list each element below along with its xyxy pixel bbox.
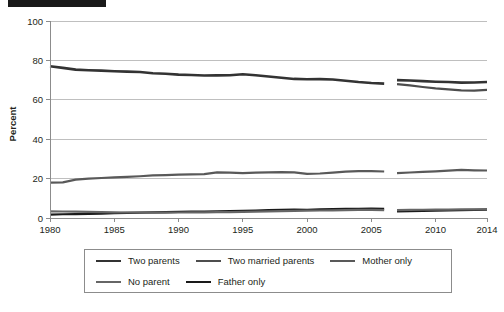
y-tick-label: 60 <box>32 94 43 105</box>
x-tick-label: 1990 <box>168 224 189 235</box>
legend-swatch-icon <box>196 260 221 262</box>
legend-item-mother-only[interactable]: Mother only <box>330 256 412 266</box>
x-axis-ticks: 19801985199019952000200520102014 <box>39 218 497 235</box>
series-line-two-married-parents <box>397 84 487 91</box>
legend-swatch-icon <box>96 281 121 283</box>
series-line-mother-only <box>50 171 384 182</box>
legend-row-1: Two parents Two married parents Mother o… <box>85 250 451 271</box>
series-line-two-parents <box>397 80 487 83</box>
y-tick-label: 40 <box>32 134 43 145</box>
x-tick-label: 1995 <box>232 224 253 235</box>
y-tick-label: 100 <box>27 16 43 27</box>
legend-label: No parent <box>128 277 170 287</box>
y-tick-label: 20 <box>32 173 43 184</box>
legend-item-two-parents[interactable]: Two parents <box>96 256 180 266</box>
y-axis-ticks: 020406080100 <box>27 16 50 224</box>
legend-row-2: No parent Father only <box>85 271 451 292</box>
legend-swatch-icon <box>186 281 211 283</box>
series-line-two-parents <box>50 66 384 83</box>
series-line-no-parent <box>397 209 487 210</box>
chart-legend: Two parents Two married parents Mother o… <box>84 249 452 293</box>
legend-label: Two married parents <box>228 256 315 266</box>
x-tick-label: 2005 <box>361 224 382 235</box>
y-axis-title: Percent <box>7 106 18 142</box>
legend-swatch-icon <box>96 260 121 262</box>
legend-item-two-married-parents[interactable]: Two married parents <box>196 256 315 266</box>
x-tick-label: 2014 <box>476 224 497 235</box>
legend-item-father-only[interactable]: Father only <box>186 277 266 287</box>
x-tick-label: 1980 <box>39 224 60 235</box>
legend-label: Mother only <box>362 256 412 266</box>
y-tick-label: 0 <box>38 213 43 224</box>
x-tick-label: 1985 <box>104 224 125 235</box>
data-series <box>50 66 487 214</box>
series-line-mother-only <box>397 170 487 173</box>
legend-label: Father only <box>218 277 266 287</box>
legend-swatch-icon <box>330 260 355 262</box>
x-tick-label: 2010 <box>425 224 446 235</box>
grid-lines <box>50 21 487 218</box>
legend-item-no-parent[interactable]: No parent <box>96 277 170 287</box>
y-tick-label: 80 <box>32 55 43 66</box>
legend-label: Two parents <box>128 256 180 266</box>
x-tick-label: 2000 <box>296 224 317 235</box>
